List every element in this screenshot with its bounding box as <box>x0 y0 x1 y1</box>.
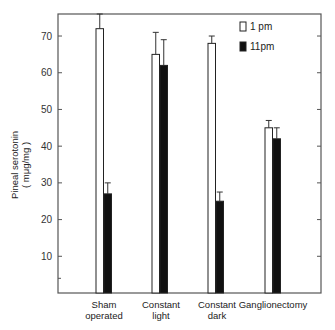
y-tick-label: 40 <box>41 141 53 152</box>
y-tick-label: 70 <box>41 31 53 42</box>
y-tick-label: 10 <box>41 251 53 262</box>
category-label: Sham <box>92 299 117 310</box>
y-axis-label: Pineal serotonin ( mμg/mg ) <box>9 131 31 199</box>
bar-chart: 10203040506070 ShamoperatedConstantlight… <box>0 0 335 330</box>
category-label-line2: operated <box>85 310 123 321</box>
bars <box>96 14 281 293</box>
y-tick-label: 60 <box>41 67 53 78</box>
y-axis-unit: ( mμg/mg ) <box>20 142 31 188</box>
bar-11pm <box>160 65 168 293</box>
y-axis-title: Pineal serotonin <box>9 131 20 199</box>
category-label: Ganglionectomy <box>239 299 308 310</box>
category-label-line2: light <box>152 310 170 321</box>
legend-label: 11pm <box>250 41 274 52</box>
legend: 1 pm11pm <box>240 21 274 52</box>
category-label: Constant <box>142 299 180 310</box>
bar-1pm <box>265 128 273 293</box>
legend-swatch <box>240 42 246 51</box>
category-label: Constant <box>198 299 236 310</box>
bar-11pm <box>104 194 112 293</box>
y-tick-label: 50 <box>41 104 53 115</box>
bar-1pm <box>152 54 160 293</box>
legend-swatch <box>240 22 246 31</box>
bar-11pm <box>216 201 224 293</box>
category-label-line2: dark <box>208 310 227 321</box>
bar-11pm <box>273 139 281 293</box>
y-tick-label: 30 <box>41 177 53 188</box>
bar-1pm <box>208 43 216 293</box>
category-labels: ShamoperatedConstantlightConstantdarkGan… <box>85 299 307 321</box>
legend-label: 1 pm <box>250 21 272 32</box>
y-tick-label: 20 <box>41 214 53 225</box>
bar-1pm <box>96 29 104 293</box>
